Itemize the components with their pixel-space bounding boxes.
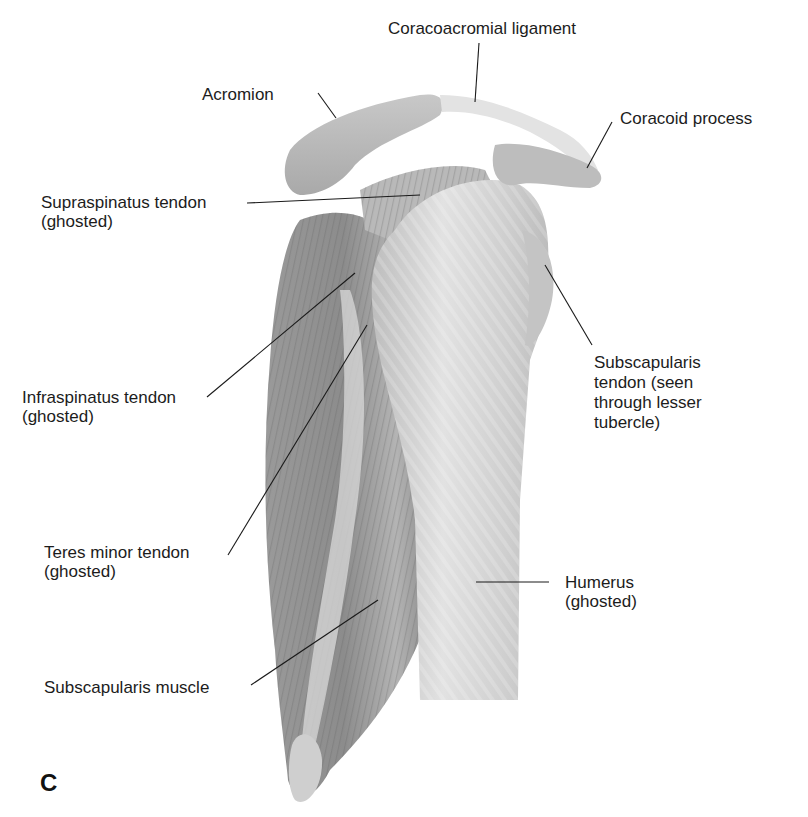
label-subscapularis-tendon: Subscapularis tendon (seen through lesse… bbox=[594, 353, 702, 433]
label-infraspinatus-tendon: Infraspinatus tendon (ghosted) bbox=[22, 388, 176, 426]
label-subscapularis-muscle: Subscapularis muscle bbox=[44, 678, 209, 697]
label-teres-minor-tendon: Teres minor tendon (ghosted) bbox=[44, 543, 190, 581]
label-humerus: Humerus (ghosted) bbox=[565, 573, 637, 611]
label-acromion: Acromion bbox=[202, 85, 274, 104]
label-coracoacromial-ligament: Coracoacromial ligament bbox=[388, 19, 576, 38]
label-coracoid-process: Coracoid process bbox=[620, 109, 752, 128]
label-supraspinatus-tendon: Supraspinatus tendon (ghosted) bbox=[41, 193, 206, 231]
panel-letter: C bbox=[40, 769, 57, 797]
